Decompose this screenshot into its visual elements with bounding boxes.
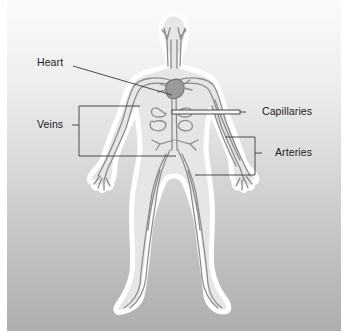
label-capillaries: Capillaries <box>262 105 312 117</box>
label-heart: Heart <box>37 56 63 68</box>
label-arteries: Arteries <box>275 146 312 158</box>
label-veins: Veins <box>37 118 63 130</box>
circulatory-figure <box>0 0 348 336</box>
body-silhouette <box>89 14 257 313</box>
